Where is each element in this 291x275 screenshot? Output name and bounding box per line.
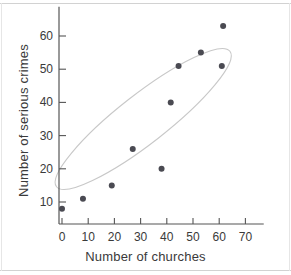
x-tick-label: 20 <box>108 230 121 244</box>
data-point <box>176 63 182 69</box>
data-point <box>220 23 226 29</box>
data-point <box>168 99 174 105</box>
x-tick-label: 70 <box>239 230 252 244</box>
data-point <box>159 166 165 172</box>
x-tick-label: 30 <box>134 230 147 244</box>
y-axis-title: Number of serious crimes <box>16 16 31 226</box>
data-point <box>80 196 86 202</box>
x-tick-label: 40 <box>160 230 173 244</box>
plot-axes <box>59 7 264 224</box>
scatter-plot-figure: 010203040506070 102030405060 Number of c… <box>0 0 291 275</box>
correlation-ellipse <box>42 32 245 206</box>
x-tick-label: 60 <box>213 230 226 244</box>
x-tick-label: 50 <box>186 230 199 244</box>
correlation-envelope <box>42 32 245 206</box>
x-tick-label: 0 <box>59 230 66 244</box>
data-point <box>109 182 115 188</box>
data-point <box>130 146 136 152</box>
data-point <box>198 50 204 56</box>
data-point <box>219 63 225 69</box>
data-point-series <box>59 23 226 212</box>
x-axis-title: Number of churches <box>0 249 291 264</box>
data-point <box>59 206 65 212</box>
x-tick-label: 10 <box>82 230 95 244</box>
